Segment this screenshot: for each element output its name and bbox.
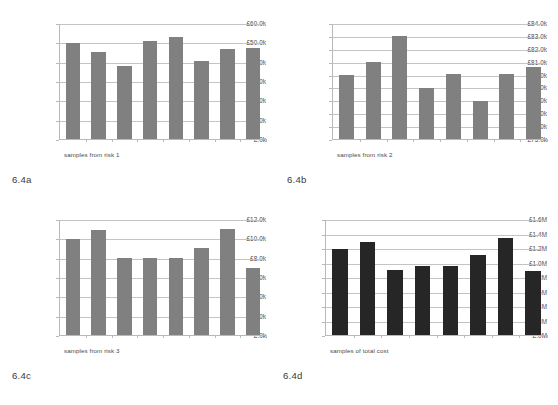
x-axis-tick-mark — [266, 139, 267, 142]
bar — [117, 66, 131, 139]
chart-panel-6-4d: £1.6M£1.4M£1.2M£1.0M£.8M£.6M£.4M£.2M£.0M… — [279, 202, 558, 405]
bar-chart-risk-2: £84.0k£83.0k£82.0k£81.0k£80.0k£79.0k£78.… — [289, 18, 547, 158]
bar-series-6-4c — [60, 220, 266, 335]
bar — [169, 37, 183, 139]
bar — [66, 239, 80, 335]
bar — [473, 101, 488, 139]
figure-caption-6-4d: 6.4d — [283, 371, 302, 381]
y-axis-tick-mark — [322, 336, 325, 337]
bar — [339, 75, 354, 139]
bar-chart-total-cost: £1.6M£1.4M£1.2M£1.0M£.8M£.6M£.4M£.2M£.0M… — [285, 214, 547, 354]
x-axis-tick-mark — [494, 139, 495, 142]
chart-panel-6-4c: £12.0k£10.0k£8.0k£6.0k£4.0k£2.0k£.0k sam… — [0, 202, 279, 405]
bar — [525, 271, 540, 335]
bar — [446, 74, 461, 139]
x-axis-tick-mark — [464, 335, 465, 338]
figure-caption-6-4c: 6.4c — [12, 371, 31, 381]
bar — [498, 238, 513, 335]
figure-caption-6-4a: 6.4a — [12, 175, 31, 185]
x-axis-tick-mark — [240, 139, 241, 142]
bar — [470, 255, 485, 335]
bar-series-6-4d — [326, 220, 547, 335]
bar — [246, 48, 260, 139]
x-axis-tick-mark — [112, 335, 113, 338]
bar — [117, 258, 131, 335]
x-axis-tick-mark — [437, 335, 438, 338]
x-axis-tick-mark — [215, 139, 216, 142]
chart-panel-6-4a: £60.0k£50.0k£40.0k£30.0k£20.0k£10.0k£.0k… — [0, 0, 279, 202]
bar-chart-risk-3: £12.0k£10.0k£8.0k£6.0k£4.0k£2.0k£.0k sam… — [14, 214, 266, 354]
figure-caption-6-4b: 6.4b — [287, 175, 306, 185]
bar-chart-risk-1: £60.0k£50.0k£40.0k£30.0k£20.0k£10.0k£.0k… — [14, 18, 266, 158]
bar — [419, 88, 434, 139]
x-axis-tick-mark — [266, 335, 267, 338]
plot-area-6-4b — [332, 24, 547, 140]
bar — [220, 49, 234, 139]
x-axis-tick-mark — [163, 139, 164, 142]
plot-area-6-4d — [325, 220, 547, 336]
bar — [220, 229, 234, 335]
bar — [194, 61, 208, 139]
x-axis-tick-mark — [86, 335, 87, 338]
bar — [143, 258, 157, 335]
bar-series-6-4a — [60, 24, 266, 139]
bar — [143, 41, 157, 139]
figure-grid: £60.0k£50.0k£40.0k£30.0k£20.0k£10.0k£.0k… — [0, 0, 558, 405]
bar — [392, 36, 407, 139]
x-axis-tick-mark — [520, 139, 521, 142]
bar — [499, 74, 514, 139]
x-axis-title-6-4a: samples from risk 1 — [64, 152, 120, 158]
y-axis-tick-mark — [329, 140, 332, 141]
x-axis-tick-mark — [354, 335, 355, 338]
bar — [526, 67, 541, 139]
x-axis-tick-mark — [360, 139, 361, 142]
x-axis-tick-mark — [189, 139, 190, 142]
bar — [169, 258, 183, 335]
x-axis-tick-mark — [409, 335, 410, 338]
x-axis-tick-mark — [137, 139, 138, 142]
plot-area-6-4a — [59, 24, 266, 140]
x-axis-tick-mark — [215, 335, 216, 338]
plot-area-6-4c — [59, 220, 266, 336]
bar — [332, 249, 347, 335]
x-axis-tick-mark — [547, 139, 548, 142]
x-axis-tick-mark — [467, 139, 468, 142]
x-axis-tick-mark — [413, 139, 414, 142]
y-axis-tick-mark — [56, 140, 59, 141]
x-axis-tick-mark — [440, 139, 441, 142]
bar — [443, 266, 458, 335]
bar — [66, 43, 80, 139]
x-axis-tick-mark — [387, 139, 388, 142]
x-axis-tick-mark — [163, 335, 164, 338]
x-axis-title-6-4c: samples from risk 3 — [64, 348, 120, 354]
x-axis-tick-mark — [547, 335, 548, 338]
x-axis-tick-mark — [519, 335, 520, 338]
x-axis-tick-mark — [137, 335, 138, 338]
x-axis-tick-mark — [189, 335, 190, 338]
bar — [194, 248, 208, 335]
bar — [91, 52, 105, 139]
x-axis-title-6-4d: samples of total cost — [330, 348, 389, 354]
bar — [246, 268, 260, 335]
bar — [387, 270, 402, 335]
bar — [415, 266, 430, 335]
x-axis-tick-mark — [112, 139, 113, 142]
y-axis-tick-mark — [56, 336, 59, 337]
chart-panel-6-4b: £84.0k£83.0k£82.0k£81.0k£80.0k£79.0k£78.… — [279, 0, 558, 202]
bar — [360, 242, 375, 335]
x-axis-title-6-4b: samples from risk 2 — [337, 152, 393, 158]
bar-series-6-4b — [333, 24, 547, 139]
bar — [91, 230, 105, 335]
bar — [366, 62, 381, 139]
x-axis-tick-mark — [240, 335, 241, 338]
x-axis-tick-mark — [381, 335, 382, 338]
x-axis-tick-mark — [86, 139, 87, 142]
x-axis-tick-mark — [492, 335, 493, 338]
